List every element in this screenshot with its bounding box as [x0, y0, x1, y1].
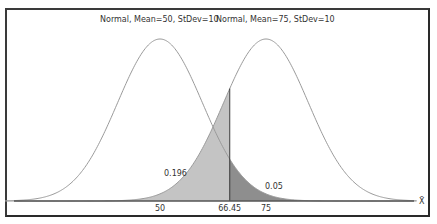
- chart-canvas: Normal, Mean=50, StDev=10 Normal, Mean=7…: [0, 0, 437, 224]
- x-axis-label: X̄: [419, 196, 425, 206]
- alpha-label: 0.05: [265, 182, 283, 191]
- beta-label: 0.196: [164, 169, 187, 178]
- tick-label-50: 50: [155, 204, 165, 213]
- legend-left: Normal, Mean=50, StDev=10: [100, 15, 219, 24]
- alpha-area: [230, 159, 417, 201]
- tick-label-75: 75: [261, 204, 271, 213]
- legend-right: Normal, Mean=75, StDev=10: [216, 15, 335, 24]
- beta-area: [5, 91, 230, 201]
- tick-label-critical: 66.45: [218, 204, 241, 213]
